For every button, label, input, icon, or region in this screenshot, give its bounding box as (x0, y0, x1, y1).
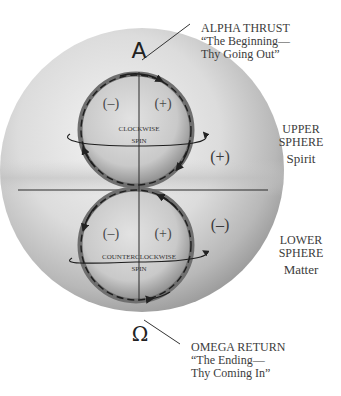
alpha-callout: ALPHA THRUST “The Beginning— Thy Going O… (201, 22, 290, 61)
alpha-callout-line3: Thy Going Out” (201, 48, 290, 61)
lower-spin-label: COUNTERCLOCKWISE (102, 253, 176, 261)
lower-right-sign: (+) (154, 226, 172, 242)
lower-spin-label-2: SPIN (131, 265, 146, 273)
omega-symbol: Ω (132, 322, 149, 346)
alpha-symbol: A (131, 38, 146, 63)
lower-sphere-line2: SPHERE (271, 247, 331, 260)
outer-upper-sign: (+) (210, 148, 230, 166)
upper-sphere-sub: Spirit (271, 152, 331, 165)
upper-sphere-line2: SPHERE (271, 136, 331, 149)
lower-left-sign: (–) (103, 226, 120, 242)
upper-sphere-label: UPPER SPHERE Spirit (271, 123, 331, 165)
outer-lower-sign: (–) (211, 216, 230, 234)
upper-left-sign: (–) (103, 96, 120, 112)
omega-callout: OMEGA RETURN “The Ending— Thy Coming In” (191, 341, 285, 380)
lower-sphere-label: LOWER SPHERE Matter (271, 234, 331, 276)
omega-leader-line (144, 320, 180, 344)
lower-sphere-sub: Matter (271, 263, 331, 276)
upper-spin-label: CLOCKWISE (119, 125, 160, 133)
omega-callout-line3: Thy Coming In” (191, 367, 285, 380)
upper-spin-label-2: SPIN (131, 137, 146, 145)
upper-right-sign: (+) (154, 96, 172, 112)
